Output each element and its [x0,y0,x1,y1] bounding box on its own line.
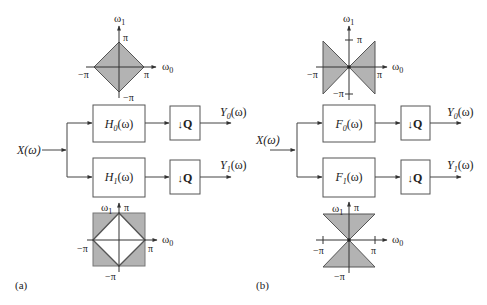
omega0-label: ω0 [392,233,403,248]
plot-b-vertical-fan: ω1 π ω0 π −π −π [313,202,403,282]
panel-b: ω1 π ω0 π −π −π X(ω) F0(ω) ↓Q Y0(ω) F1(ω… [255,12,474,292]
neg-pi-tick-label: −π [334,271,345,282]
neg-pi-tick-label: −π [105,271,116,282]
pi-tick-label: π [357,34,362,45]
downsampler-q1-label: ↓Q [408,171,423,185]
plot-a-highpass-complement: ω1 π ω0 π −π −π [77,201,173,282]
filter-h0-label: H0(ω) [104,117,134,133]
omega0-label: ω0 [162,233,173,248]
plot-b-horizontal-fan: ω1 π ω0 π −π −π [307,12,403,100]
neg-pi-tick-label: −π [333,88,344,99]
output-y0-label: Y0(ω) [447,105,474,121]
caption-b: (b) [256,279,269,292]
downsampler-q1-label: ↓Q [178,171,193,185]
omega1-label: ω1 [114,12,125,27]
omega0-label: ω0 [162,60,173,75]
downsampler-q0-label: ↓Q [408,117,423,131]
neg-pi-tick-label: −π [307,69,318,80]
output-y1-label: Y1(ω) [447,158,474,174]
plot-a-lowpass-diamond: ω1 ω0 π π −π −π [78,12,173,103]
pi-tick-label: π [354,202,359,213]
neg-pi-tick-label: −π [78,69,89,80]
input-label-x: X(ω) [255,133,280,147]
panel-a: ω1 ω0 π π −π −π X(ω) H0(ω) ↓Q Y0(ω) H1(ω… [15,12,247,292]
neg-pi-tick-label: −π [123,92,134,103]
pi-tick-label: π [144,69,149,80]
pi-tick-label: π [377,69,382,80]
caption-a: (a) [15,279,28,292]
pi-tick-label: π [148,243,153,254]
downsampler-q0-label: ↓Q [178,117,193,131]
filter-f0-label: F0(ω) [334,117,362,133]
input-label-x: X(ω) [16,143,41,157]
origin-dot [347,65,351,69]
output-y1-label: Y1(ω) [220,158,247,174]
pi-tick-label: π [124,202,129,213]
neg-pi-tick-label: −π [77,243,88,254]
filter-bank-diagram: ω1 ω0 π π −π −π X(ω) H0(ω) ↓Q Y0(ω) H1(ω… [0,0,487,305]
filter-h1-label: H1(ω) [104,170,134,186]
origin-dot [347,238,351,242]
output-y0-label: Y0(ω) [220,105,247,121]
pi-tick-label: π [371,245,376,256]
pi-tick-label: π [123,32,128,43]
omega1-label: ω1 [343,12,354,27]
filter-f1-label: F1(ω) [334,170,362,186]
omega0-label: ω0 [392,60,403,75]
neg-pi-tick-label: −π [313,245,324,256]
